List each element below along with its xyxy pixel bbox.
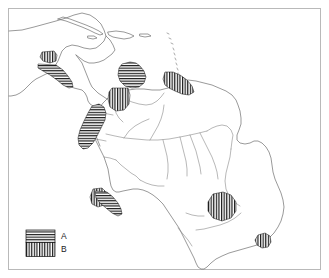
legend-label-b: B xyxy=(61,244,67,254)
map-canvas: A B xyxy=(0,0,329,278)
distribution-map-figure: A B xyxy=(0,0,329,278)
legend-swatch-b xyxy=(26,243,55,257)
legend-swatch-a xyxy=(26,230,55,243)
legend-label-a: A xyxy=(61,231,67,241)
area-brazil-central-plateau xyxy=(208,192,236,221)
map-legend: A B xyxy=(26,230,67,257)
